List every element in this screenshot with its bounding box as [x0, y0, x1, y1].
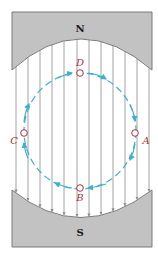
point-c-label: C — [10, 135, 18, 146]
arrow-icon — [130, 144, 135, 160]
arrow-icon — [88, 184, 106, 188]
point-d-marker — [77, 70, 84, 77]
closed-path-loop — [24, 73, 136, 189]
north-pole-label: N — [75, 23, 84, 34]
points-layer: DABC — [10, 57, 149, 203]
point-a-label: A — [141, 135, 149, 146]
point-b-label: B — [75, 192, 83, 203]
arrow-icon — [130, 105, 135, 121]
point-b-marker — [77, 185, 84, 192]
magnetic-field-diagram: N S DABC — [0, 0, 158, 261]
arrow-icon — [58, 73, 72, 78]
south-pole-label: S — [76, 227, 83, 238]
arrow-icon — [88, 73, 106, 79]
point-a-marker — [132, 130, 139, 137]
point-c-marker — [21, 130, 28, 137]
arrow-icon — [55, 183, 72, 188]
point-d-label: D — [75, 57, 84, 68]
